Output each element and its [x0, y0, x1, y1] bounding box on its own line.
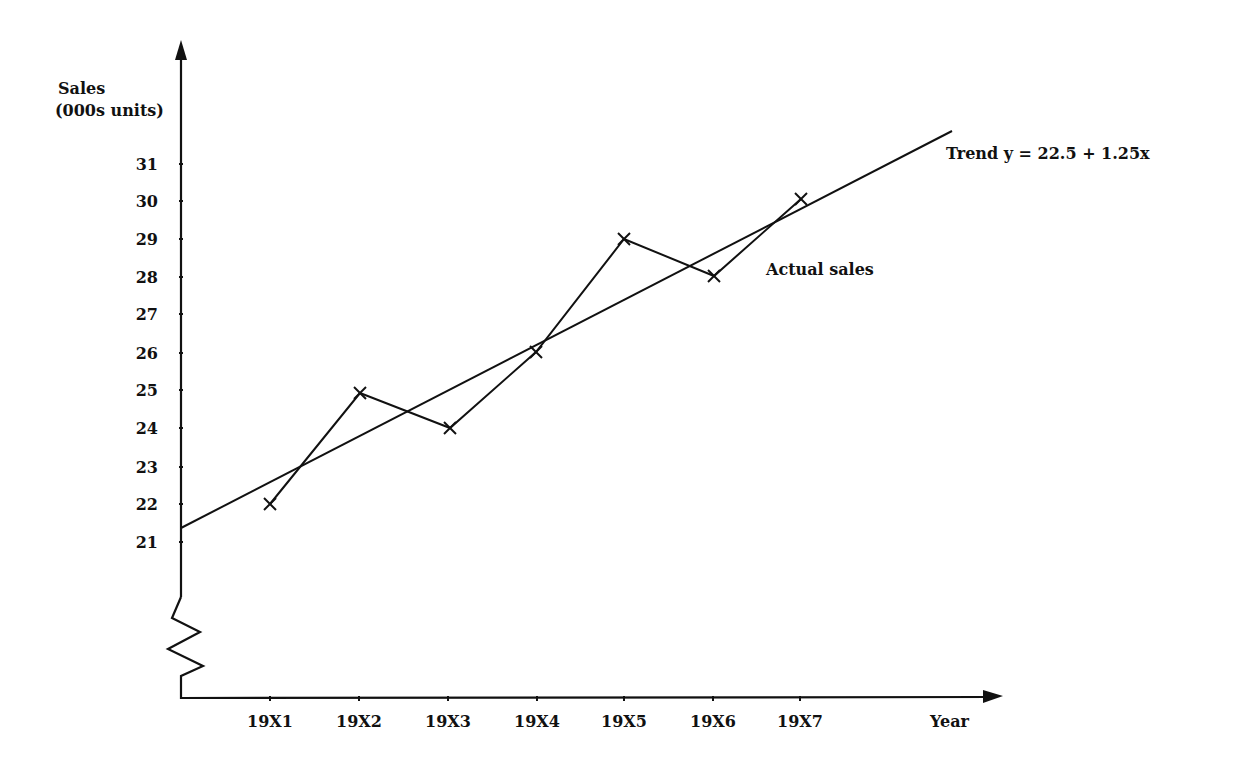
y-tick-label: 28	[136, 268, 158, 287]
y-tick-label: 23	[136, 458, 158, 477]
y-tick-label: 22	[136, 495, 158, 514]
x-tick-label: 19X6	[690, 712, 736, 731]
cross-marker-icon	[795, 193, 807, 205]
y-tick-label: 21	[136, 533, 158, 552]
cross-marker-icon	[444, 422, 456, 434]
y-tick-label: 27	[136, 305, 158, 324]
y-tick-label: 29	[136, 230, 158, 249]
cross-marker-icon	[264, 498, 276, 510]
x-tick-label: 19X5	[601, 712, 647, 731]
x-tick-label: 19X2	[336, 712, 382, 731]
y-tick-labels: 21 22 23 24 25 26 27 28 29 30 31	[136, 155, 158, 552]
y-tick-label: 25	[136, 381, 158, 400]
x-tick-labels: 19X1 19X2 19X3 19X4 19X5 19X6 19X7	[247, 712, 823, 731]
data-point-markers	[264, 193, 807, 510]
y-axis-arrow-icon	[175, 40, 187, 60]
actual-sales-label: Actual sales	[765, 260, 874, 279]
x-axis	[181, 697, 990, 698]
cross-marker-icon	[708, 270, 720, 282]
x-axis-label: Year	[929, 712, 970, 731]
y-tick-label: 24	[136, 419, 158, 438]
sales-trend-chart: Sales (000s units) Year 21 22 23 24 25 2…	[0, 0, 1237, 778]
trend-line	[181, 131, 952, 528]
x-tick-label: 19X3	[425, 712, 471, 731]
y-tick-label: 31	[136, 155, 158, 174]
x-axis-arrow-icon	[983, 690, 1003, 703]
trend-label: Trend y = 22.5 + 1.25x	[946, 144, 1150, 163]
cross-marker-icon	[530, 346, 542, 358]
x-tick-label: 19X7	[777, 712, 823, 731]
cross-marker-icon	[354, 387, 366, 399]
cross-marker-icon	[618, 233, 630, 245]
x-tick-label: 19X4	[514, 712, 560, 731]
y-axis	[168, 52, 203, 699]
x-tick-label: 19X1	[247, 712, 293, 731]
y-tick-label: 26	[136, 344, 158, 363]
y-axis-label-line1: Sales	[58, 79, 105, 98]
y-tick-label: 30	[136, 192, 158, 211]
y-axis-label-line2: (000s units)	[55, 101, 164, 120]
